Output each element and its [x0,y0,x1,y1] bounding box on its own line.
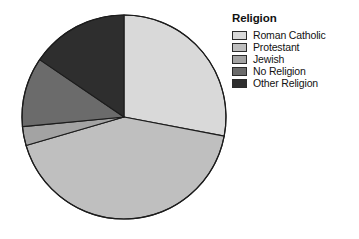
legend-title: Religion [232,12,359,25]
legend-item-no-religion: No Religion [232,65,359,77]
legend-swatch-no-religion [232,67,247,76]
legend-item-protestant: Protestant [232,41,359,53]
legend-swatch-roman-catholic [232,31,247,40]
legend-label-protestant: Protestant [253,41,299,53]
chart-legend: Religion Roman Catholic Protestant Jewis… [232,12,359,89]
legend-label-no-religion: No Religion [253,65,306,77]
legend-label-roman-catholic: Roman Catholic [253,29,326,41]
legend-swatch-protestant [232,43,247,52]
legend-item-jewish: Jewish [232,53,359,65]
legend-swatch-jewish [232,55,247,64]
pie-slice-group [22,15,226,219]
legend-item-roman-catholic: Roman Catholic [232,29,359,41]
legend-item-other-religion: Other Religion [232,77,359,89]
pie-chart-figure: Religion Roman Catholic Protestant Jewis… [0,0,359,239]
legend-swatch-other-religion [232,79,247,88]
pie-slice-roman-catholic [124,15,226,136]
legend-label-jewish: Jewish [253,53,284,65]
legend-label-other-religion: Other Religion [253,77,318,89]
